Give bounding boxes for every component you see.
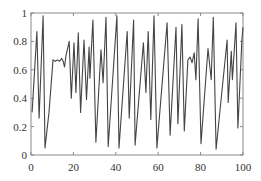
- y-axis-tick-labels: 00.20.40.60.81: [13, 7, 27, 161]
- plot-area: [31, 13, 243, 155]
- x-tick-label: 40: [110, 161, 122, 173]
- x-tick-label: 80: [195, 161, 207, 173]
- y-tick-label: 0.6: [13, 64, 27, 76]
- x-tick-label: 100: [235, 161, 252, 173]
- y-tick-label: 1: [22, 7, 28, 19]
- line-chart: 020406080100 00.20.40.60.81: [0, 0, 261, 181]
- y-tick-label: 0: [22, 149, 28, 161]
- x-axis-ticks: [31, 13, 243, 155]
- x-tick-label: 20: [68, 161, 80, 173]
- y-tick-label: 0.2: [13, 121, 27, 133]
- y-tick-label: 0.4: [13, 92, 27, 104]
- x-tick-label: 0: [28, 161, 34, 173]
- data-series-line: [32, 16, 243, 150]
- y-axis-ticks: [31, 13, 243, 155]
- y-tick-label: 0.8: [13, 35, 27, 47]
- x-axis-tick-labels: 020406080100: [28, 161, 252, 173]
- x-tick-label: 60: [153, 161, 165, 173]
